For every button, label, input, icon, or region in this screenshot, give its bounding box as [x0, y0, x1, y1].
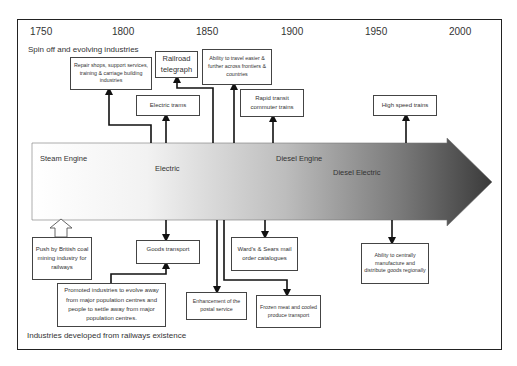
box-electric-trams: Electric trams	[136, 95, 200, 116]
box-wards-sears: Ward's & Sears mail order catalogues	[231, 237, 298, 271]
box-rapid-transit: Rapid transit commuter trains	[240, 89, 304, 117]
era-steam-engine: Steam Engine	[40, 154, 87, 163]
connector-promoted-goods	[111, 265, 166, 283]
box-repair-shops: Repair shops, support services, training…	[70, 57, 152, 90]
box-goods-transport: Goods transport	[136, 240, 200, 264]
era-electric: Electric	[155, 164, 180, 173]
box-push-coal-mining: Push by British coal mining industry for…	[32, 237, 92, 280]
era-diesel-electric: Diesel Electric	[333, 168, 381, 177]
box-railroad-telegraph: Railroad telegraph	[155, 51, 198, 78]
box-travel-across-frontiers: Ability to travel easier & further acros…	[202, 49, 272, 85]
timeline-arrow	[32, 138, 492, 226]
hollow-up-arrow-icon	[50, 219, 72, 237]
era-diesel-engine: Diesel Engine	[276, 154, 322, 163]
box-promoted-industries: Promoted industries to evolve away from …	[57, 283, 166, 327]
box-postal-service: Enhancement of the postal service	[186, 292, 247, 320]
box-frozen-meat: Frozen meat and cooled produce transport	[256, 295, 321, 328]
box-centrally-manufacture: Ability to centrally manufacture and dis…	[361, 243, 429, 284]
box-high-speed-trains: High speed trains	[373, 95, 437, 116]
